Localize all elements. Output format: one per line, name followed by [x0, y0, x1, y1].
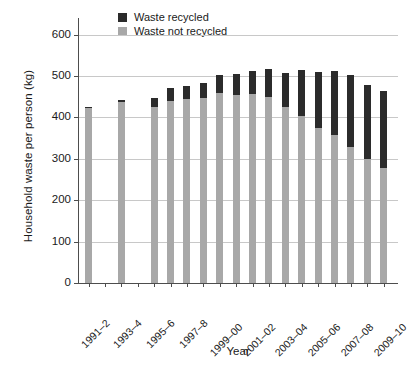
bar-stack — [282, 18, 289, 283]
x-tick-mark — [220, 283, 221, 287]
bar-stack — [315, 18, 322, 283]
x-tick-mark — [203, 283, 204, 287]
bar-stack — [85, 18, 92, 283]
bar-stack — [183, 18, 190, 283]
bar-segment-not-recycled — [85, 108, 92, 283]
bar-stack — [265, 18, 272, 283]
x-tick-mark — [384, 283, 385, 287]
x-tick-label: 1997–8 — [201, 292, 234, 325]
y-tick-label: 0 — [65, 277, 71, 289]
bar-segment-recycled — [315, 72, 322, 127]
x-axis-title: Year — [78, 345, 398, 357]
y-tick-label: 400 — [52, 112, 71, 124]
y-tick-label: 300 — [52, 153, 71, 165]
bar-segment-not-recycled — [265, 97, 272, 283]
bar-segment-recycled — [282, 73, 289, 107]
bar-segment-recycled — [200, 83, 207, 97]
chart-figure: Household waste per person (kg) Waste re… — [0, 0, 415, 371]
bar-segment-not-recycled — [233, 95, 240, 283]
bar-series-group — [78, 18, 398, 283]
x-tick-mark — [105, 283, 106, 287]
bar-segment-not-recycled — [183, 99, 190, 283]
bar-segment-not-recycled — [249, 94, 256, 283]
bar-segment-not-recycled — [331, 135, 338, 283]
bar-segment-recycled — [265, 69, 272, 97]
x-tick-mark — [171, 283, 172, 287]
y-tick-label: 600 — [52, 29, 71, 41]
x-tick-mark — [335, 283, 336, 287]
bar-segment-recycled — [364, 85, 371, 159]
bar-segment-recycled — [233, 74, 240, 95]
bar-segment-recycled — [331, 71, 338, 135]
bar-segment-not-recycled — [200, 98, 207, 283]
x-tick-mark — [302, 283, 303, 287]
bar-stack — [200, 18, 207, 283]
bar-stack — [249, 18, 256, 283]
x-tick-mark — [318, 283, 319, 287]
y-tick-label: 100 — [52, 236, 71, 248]
bar-segment-not-recycled — [216, 93, 223, 283]
bar-stack — [216, 18, 223, 283]
bar-segment-not-recycled — [364, 159, 371, 283]
bar-segment-recycled — [216, 75, 223, 93]
bar-segment-recycled — [118, 100, 125, 102]
x-tick-mark — [236, 283, 237, 287]
bar-segment-not-recycled — [151, 107, 158, 283]
bar-segment-not-recycled — [347, 147, 354, 283]
bar-stack — [233, 18, 240, 283]
bar-stack — [331, 18, 338, 283]
bar-stack — [167, 18, 174, 283]
bar-segment-not-recycled — [315, 128, 322, 283]
y-axis-title: Household waste per person (kg) — [22, 46, 34, 266]
bar-stack — [347, 18, 354, 283]
bar-segment-not-recycled — [380, 168, 387, 283]
bar-segment-not-recycled — [167, 101, 174, 283]
bar-segment-recycled — [249, 71, 256, 94]
x-tick-mark — [138, 283, 139, 287]
bar-stack — [151, 18, 158, 283]
x-tick-mark — [187, 283, 188, 287]
bar-segment-not-recycled — [118, 102, 125, 283]
x-tick-mark — [154, 283, 155, 287]
x-tick-mark — [269, 283, 270, 287]
bar-segment-not-recycled — [298, 116, 305, 283]
bar-segment-recycled — [298, 70, 305, 116]
y-tick-mark — [74, 283, 78, 284]
y-tick-label: 200 — [52, 194, 71, 206]
bar-stack — [118, 18, 125, 283]
bar-segment-recycled — [151, 98, 158, 108]
bar-segment-recycled — [347, 75, 354, 147]
plot-area: 0100200300400500600 1991–21993–41995–619… — [78, 18, 398, 283]
x-tick-mark — [285, 283, 286, 287]
bar-segment-recycled — [183, 86, 190, 99]
x-tick-mark — [121, 283, 122, 287]
bar-segment-recycled — [167, 88, 174, 100]
x-tick-mark — [89, 283, 90, 287]
x-tick-mark — [367, 283, 368, 287]
bar-segment-recycled — [85, 107, 92, 108]
x-tick-mark — [351, 283, 352, 287]
bar-segment-not-recycled — [282, 107, 289, 283]
bar-stack — [380, 18, 387, 283]
bar-segment-recycled — [380, 91, 387, 168]
y-tick-label: 500 — [52, 70, 71, 82]
x-tick-mark — [253, 283, 254, 287]
bar-stack — [364, 18, 371, 283]
bar-stack — [298, 18, 305, 283]
